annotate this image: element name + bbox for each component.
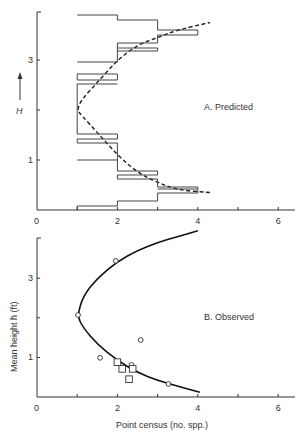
circle-marker <box>113 258 118 263</box>
y-axis-label-b: Mean height h̄ (ft) <box>9 301 19 372</box>
x-tick-label: 2 <box>115 403 120 413</box>
fitted-curve <box>79 231 200 393</box>
x-tick-label: 0 <box>34 216 39 226</box>
circle-marker <box>98 355 103 360</box>
y-tick-label: 1 <box>28 352 33 362</box>
panel-a: 024613 <box>28 12 295 226</box>
square-marker <box>114 359 121 366</box>
step-histogram <box>77 15 198 210</box>
x-tick-label: 6 <box>276 403 281 413</box>
x-tick-label: 6 <box>276 216 281 226</box>
panel-a-title: A. Predicted <box>204 102 253 112</box>
x-tick-label: 4 <box>195 216 200 226</box>
y-tick-label: 1 <box>28 155 33 165</box>
x-tick-label: 0 <box>34 403 39 413</box>
circle-marker <box>166 382 171 387</box>
arrowhead-icon <box>18 72 23 79</box>
panel-b-title: B. Observed <box>204 312 254 322</box>
y-tick-label: 3 <box>28 273 33 283</box>
square-marker <box>119 366 126 373</box>
x-tick-label: 2 <box>115 216 120 226</box>
x-axis-label-b: Point census (no. spp.) <box>116 420 208 430</box>
x-tick-label: 4 <box>195 403 200 413</box>
panel-b: 024613 <box>28 231 295 413</box>
circle-marker <box>138 338 143 343</box>
y-axis-label-a: H <box>16 106 23 116</box>
circle-marker <box>76 313 81 318</box>
figure: 024613024613A. PredictedB. ObservedHMean… <box>0 0 305 436</box>
square-marker <box>129 366 136 373</box>
y-tick-label: 3 <box>28 55 33 65</box>
square-marker <box>126 376 133 383</box>
